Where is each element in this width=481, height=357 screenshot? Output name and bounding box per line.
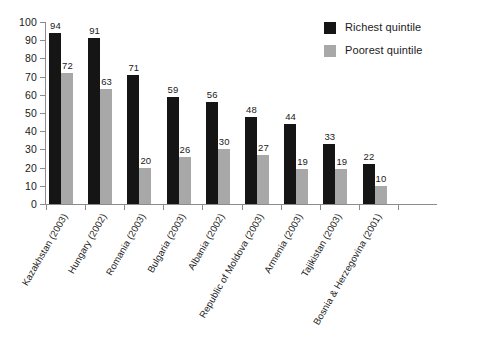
x-axis-label: Bulgaria (2003) — [145, 212, 187, 275]
legend-swatch — [324, 45, 336, 57]
x-axis-label: Tajikistan (2003) — [300, 212, 344, 278]
x-axis-label: Romania (2003) — [105, 212, 148, 277]
x-axis-label: Armenia (2003) — [263, 212, 305, 275]
x-axis-label: Hungary (2002) — [66, 212, 108, 275]
x-axis-label: Bosnia & Herzegovina (2001) — [311, 212, 383, 327]
x-axis-label: Kazakhstan (2003) — [20, 212, 69, 288]
legend-label: Poorest quintile — [345, 45, 422, 56]
bar-chart: 0102030405060708090100 94729163712059265… — [0, 0, 481, 357]
legend-item: Richest quintile — [324, 16, 422, 39]
chart-legend: Richest quintilePoorest quintile — [324, 16, 422, 62]
legend-swatch — [324, 22, 336, 34]
legend-label: Richest quintile — [345, 22, 421, 33]
legend-item: Poorest quintile — [324, 39, 422, 62]
x-axis-label: Albania (2002) — [186, 212, 226, 272]
